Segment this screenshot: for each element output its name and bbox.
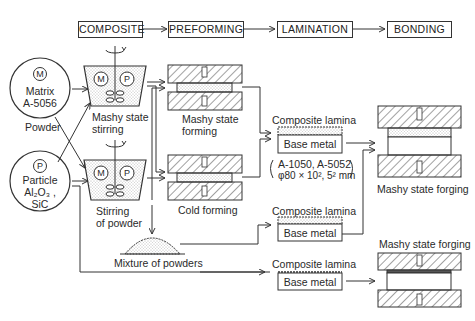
mashy-stirring-label-2: stirring	[92, 123, 124, 135]
lamina-3-base-label: Base metal	[278, 276, 342, 288]
powder-pile	[120, 238, 185, 254]
particle-symbol-crucible-2: P	[121, 167, 133, 179]
spec-line-1: A-1050, A-5052	[278, 158, 351, 170]
mashy-forming-press	[168, 65, 242, 110]
cold-forming-press	[168, 155, 242, 200]
matrix-alloy: A-5056	[10, 97, 70, 109]
forging-2-label: Mashy state forging	[379, 238, 471, 250]
mixture-label: Mixture of powders	[114, 257, 203, 269]
matrix-symbol-crucible-2: M	[95, 167, 107, 179]
stage-bonding: BONDING	[387, 21, 452, 38]
lamina-2-top-label: Composite lamina	[272, 205, 356, 217]
matrix-symbol-crucible-1: M	[95, 73, 107, 85]
forging-press-1	[378, 106, 461, 177]
particle-materials: Al₂O₃ ,	[10, 186, 70, 198]
lamina-1-top-label: Composite lamina	[272, 114, 356, 126]
matrix-symbol: M	[34, 68, 46, 80]
particle-symbol: P	[34, 160, 46, 172]
spec-line-2: φ80 × 10², 5² mm	[278, 170, 355, 182]
lamina-3-top-label: Composite lamina	[272, 258, 356, 270]
mashy-stirring-label-1: Mashy state	[92, 111, 149, 123]
cold-forming-label: Cold forming	[178, 204, 238, 216]
particle-label: Particle	[10, 174, 70, 186]
process-diagram	[0, 0, 475, 321]
mashy-forming-label-1: Mashy state	[182, 113, 239, 125]
powder-label: Powder	[25, 121, 61, 133]
lamina-1-base-label: Base metal	[278, 138, 342, 150]
powder-stirring-crucible	[84, 140, 146, 200]
stage-preforming: PREFORMING	[168, 21, 244, 38]
powder-stirring-label-1: Stirring	[96, 205, 129, 217]
forging-1-label: Mashy state forging	[377, 183, 469, 195]
lamina-2-base-label: Base metal	[278, 227, 342, 239]
particle-materials-2: SiC	[10, 198, 70, 210]
mashy-stirring-crucible	[84, 46, 146, 106]
particle-symbol-crucible-1: P	[121, 73, 133, 85]
stage-lamination: LAMINATION	[277, 21, 353, 38]
matrix-label: Matrix	[10, 85, 70, 97]
forging-press-2	[378, 253, 461, 307]
stage-composite: COMPOSITE	[78, 21, 143, 38]
powder-stirring-label-2: of powder	[96, 217, 142, 229]
mashy-forming-label-2: forming	[182, 125, 217, 137]
